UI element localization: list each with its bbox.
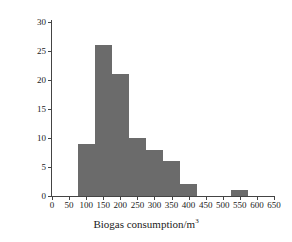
x-tick-label: 150 [96, 201, 110, 210]
y-tick-mark [48, 109, 52, 110]
x-tick-label: 250 [131, 201, 145, 210]
x-tick-label: 400 [182, 201, 196, 210]
x-tick-label: 100 [79, 201, 93, 210]
x-axis-title-superscript: 3 [195, 217, 199, 225]
y-tick-label: 20 [37, 76, 46, 85]
y-tick-label: 5 [42, 163, 47, 172]
y-tick-mark [48, 22, 52, 23]
x-tick-label: 600 [250, 201, 264, 210]
bar [180, 184, 197, 196]
y-tick-label: 30 [37, 18, 46, 27]
bar [129, 138, 146, 196]
x-tick-label: 50 [65, 201, 74, 210]
bar [146, 150, 163, 196]
x-tick-label: 450 [199, 201, 213, 210]
y-tick-mark [48, 138, 52, 139]
y-tick-mark [48, 51, 52, 52]
y-tick-label: 25 [37, 47, 46, 56]
plot-area: 051015202530 050100150200250300350400450… [52, 22, 274, 196]
x-tick-label: 300 [148, 201, 162, 210]
x-axis-title: Biogas consumption/m3 [0, 219, 292, 230]
x-tick-label: 650 [267, 201, 281, 210]
y-tick-label: 10 [37, 134, 46, 143]
x-tick-label: 550 [233, 201, 247, 210]
bar [95, 45, 112, 196]
y-tick-mark [48, 80, 52, 81]
bar [112, 74, 129, 196]
histogram-figure: 051015202530 050100150200250300350400450… [0, 0, 292, 242]
x-tick-label: 500 [216, 201, 230, 210]
bar [163, 161, 180, 196]
x-tick-label: 0 [50, 201, 55, 210]
y-tick-label: 15 [37, 105, 46, 114]
y-tick-label: 0 [42, 192, 47, 201]
x-tick-label: 200 [114, 201, 128, 210]
x-tick-label: 350 [165, 201, 179, 210]
y-tick-mark [48, 167, 52, 168]
x-axis-line [51, 196, 275, 197]
x-axis-title-text: Biogas consumption/m [93, 218, 195, 230]
bar [78, 144, 95, 196]
